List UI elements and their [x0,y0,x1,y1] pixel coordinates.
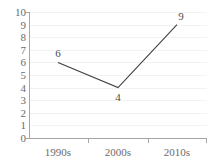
series-polyline-0 [58,25,177,88]
data-label-2010s: 9 [171,11,191,22]
data-label-2000s: 4 [108,92,128,103]
series-line [0,0,216,164]
line-chart: 10 9 8 7 6 5 4 3 2 1 0 1990s 2000s 2010s… [0,0,216,164]
data-label-1990s: 6 [48,48,68,59]
